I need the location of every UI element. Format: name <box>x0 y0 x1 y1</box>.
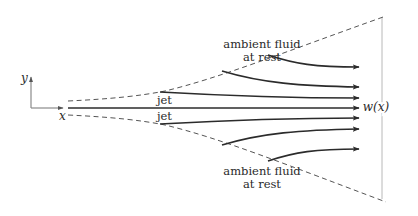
streamline-ambient-top-outer <box>268 55 359 67</box>
ambient-top-label-line1: ambient fluid <box>223 37 301 51</box>
jet-label-upper: jet <box>155 93 172 107</box>
y-axis-label: y <box>20 71 28 85</box>
coordinate-axes <box>31 77 63 108</box>
streamline-ambient-bottom-outer <box>268 149 359 161</box>
jet-label-lower: jet <box>155 109 172 123</box>
streamline-ambient-top-inner <box>222 71 359 87</box>
jet-diagram: y x jet jet ambient fluid at rest ambien… <box>0 0 418 216</box>
ambient-bottom-label-line1: ambient fluid <box>223 164 301 178</box>
width-label: w(x) <box>363 100 390 114</box>
ambient-bottom-label-line2: at rest <box>243 177 281 191</box>
upper-boundary <box>68 16 386 101</box>
streamline-jet-lower <box>160 118 359 124</box>
ambient-top-label-line2: at rest <box>243 50 281 64</box>
streamline-ambient-bottom-inner <box>222 129 359 145</box>
streamline-jet-upper <box>160 92 359 98</box>
lower-boundary <box>68 115 386 202</box>
x-axis-label: x <box>59 109 66 123</box>
streamlines <box>68 55 359 161</box>
